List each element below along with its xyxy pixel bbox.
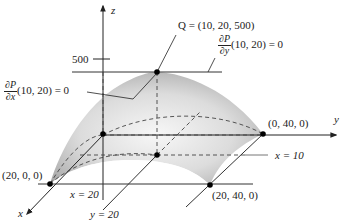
y20-label: y = 20 <box>90 209 119 220</box>
dpdx-num: ∂P <box>4 80 17 92</box>
z-tick-500: 500 <box>72 54 89 65</box>
point-20-40-0 <box>207 182 213 188</box>
dpdy-num: ∂P <box>218 34 231 46</box>
x-axis-label: x <box>18 208 23 219</box>
surface-diagram <box>0 0 344 224</box>
point-origin-level <box>100 131 106 137</box>
dpdx-den: ∂x <box>4 92 17 103</box>
point-q-label: Q = (10, 20, 500) <box>178 20 254 31</box>
point-10-20-0 <box>154 152 160 158</box>
dpdy-den: ∂y <box>218 46 231 57</box>
z-axis-label: z <box>111 5 115 16</box>
q-leader <box>157 35 176 72</box>
x10-label: x = 10 <box>275 150 304 161</box>
point-0-40-0 <box>260 131 266 137</box>
x20-label: x = 20 <box>70 189 99 200</box>
y-axis-label: y <box>334 114 339 125</box>
point-q <box>154 69 160 75</box>
dpdy-leader <box>208 58 215 72</box>
point-20-40-0-label: (20, 40, 0) <box>212 190 258 201</box>
dpdy-value: (10, 20) = 0 <box>231 38 283 50</box>
point-20-0-0 <box>47 181 53 187</box>
dpdx-value: (10, 20) = 0 <box>17 84 69 96</box>
dpdy-annotation: ∂P∂y(10, 20) = 0 <box>218 34 283 56</box>
dpdx-annotation: ∂P∂x(10, 20) = 0 <box>4 80 69 102</box>
point-20-0-0-label: (20, 0, 0) <box>2 170 42 181</box>
point-0-40-0-label: (0, 40, 0) <box>268 118 308 129</box>
